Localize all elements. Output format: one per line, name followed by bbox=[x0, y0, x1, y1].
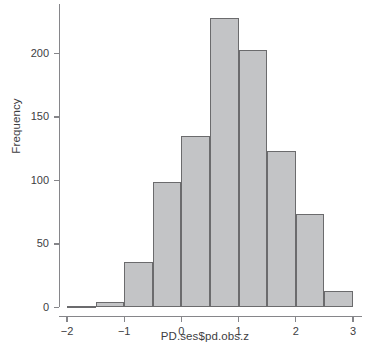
y-tick-label: 50 bbox=[15, 237, 49, 249]
x-tick-label: −2 bbox=[52, 325, 82, 337]
histogram-bar bbox=[96, 302, 125, 307]
histogram-bar bbox=[296, 214, 325, 308]
x-tick-mark bbox=[352, 317, 353, 322]
histogram-bar bbox=[153, 182, 182, 308]
histogram-bar bbox=[267, 151, 296, 307]
x-tick-label: 0 bbox=[166, 325, 196, 337]
x-tick-mark bbox=[238, 317, 239, 322]
y-tick-mark bbox=[54, 307, 59, 308]
histogram-bar bbox=[124, 262, 153, 308]
y-tick-mark bbox=[54, 53, 59, 54]
x-tick-label: 3 bbox=[338, 325, 368, 337]
x-axis-line bbox=[59, 316, 363, 317]
y-tick-label: 200 bbox=[15, 47, 49, 59]
y-axis-line bbox=[59, 4, 60, 308]
histogram-bar bbox=[324, 291, 353, 308]
x-tick-mark bbox=[66, 317, 67, 322]
x-tick-mark bbox=[181, 317, 182, 322]
histogram-bar bbox=[210, 18, 239, 308]
x-tick-mark bbox=[295, 317, 296, 322]
y-tick-mark bbox=[54, 116, 59, 117]
y-tick-mark bbox=[54, 180, 59, 181]
histogram-bar bbox=[239, 50, 268, 308]
plot-area: 050100150200 −2−10123 bbox=[0, 0, 373, 360]
y-tick-mark bbox=[54, 243, 59, 244]
histogram-bar bbox=[181, 136, 210, 307]
x-tick-label: 1 bbox=[224, 325, 254, 337]
y-tick-label: 150 bbox=[15, 110, 49, 122]
x-tick-label: 2 bbox=[281, 325, 311, 337]
histogram-bar bbox=[67, 306, 96, 308]
x-tick-label: −1 bbox=[109, 325, 139, 337]
x-tick-mark bbox=[124, 317, 125, 322]
y-tick-label: 100 bbox=[15, 174, 49, 186]
y-tick-label: 0 bbox=[15, 301, 49, 313]
histogram-figure: Frequency PD.ses$pd.obs.z 050100150200 −… bbox=[0, 0, 373, 360]
